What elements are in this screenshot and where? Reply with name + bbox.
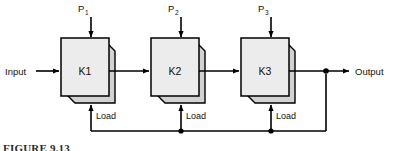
p2-subscript: 2: [175, 9, 179, 16]
p1-subscript: 1: [85, 9, 89, 16]
load-label-stage1: Load: [96, 111, 116, 121]
p3-subscript: 3: [265, 9, 269, 16]
block-diagram: K1 K2 K3: [0, 0, 394, 151]
load-label-stage2: Load: [186, 111, 206, 121]
k3-block-label: K3: [259, 65, 272, 77]
k2-block-label: K2: [169, 65, 182, 77]
p3-label: P: [258, 3, 264, 14]
output-label: Output: [355, 66, 384, 77]
load-label-stage3: Load: [276, 111, 296, 121]
figure-caption: FIGURE 9.13: [3, 142, 70, 151]
junction-dot-output-tap: [323, 68, 329, 74]
input-label: Input: [5, 66, 26, 77]
p1-label: P: [78, 3, 84, 14]
k1-block-label: K1: [79, 65, 92, 77]
figure-container: K1 K2 K3: [0, 0, 394, 151]
p2-label: P: [168, 3, 174, 14]
